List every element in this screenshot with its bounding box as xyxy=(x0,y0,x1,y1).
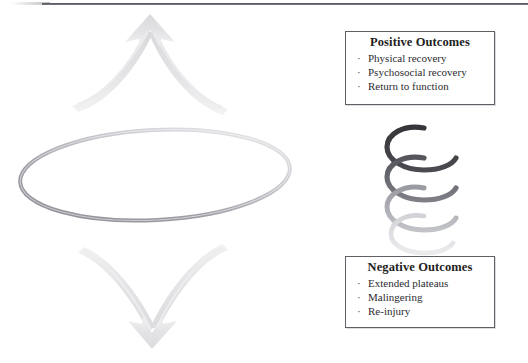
list-item: · Re-injury xyxy=(355,304,494,318)
bullet-icon: · xyxy=(357,51,361,65)
spiral-coil-icon xyxy=(387,127,456,253)
list-item-label: Extended plateaus xyxy=(368,277,448,289)
list-item: · Physical recovery xyxy=(355,51,494,65)
bullet-icon: · xyxy=(357,290,361,304)
list-item: · Psychosocial recovery xyxy=(355,65,494,79)
bullet-icon: · xyxy=(357,79,361,93)
positive-outcomes-title: Positive Outcomes xyxy=(346,35,494,50)
negative-outcomes-box: Negative Outcomes · Extended plateaus · … xyxy=(345,256,495,328)
down-arrow-icon xyxy=(78,244,228,349)
bullet-icon: · xyxy=(357,65,361,79)
list-item-label: Physical recovery xyxy=(368,52,447,64)
list-item: · Extended plateaus xyxy=(355,276,494,290)
negative-outcomes-title: Negative Outcomes xyxy=(346,260,494,275)
up-arrow-icon xyxy=(72,14,228,115)
list-item-label: Psychosocial recovery xyxy=(368,66,467,78)
positive-outcomes-box: Positive Outcomes · Physical recovery · … xyxy=(345,31,495,105)
positive-outcomes-list: · Physical recovery · Psychosocial recov… xyxy=(346,51,494,94)
list-item-label: Malingering xyxy=(368,291,422,303)
list-item: · Return to function xyxy=(355,79,494,93)
list-item: · Malingering xyxy=(355,290,494,304)
figure-canvas: Positive Outcomes · Physical recovery · … xyxy=(0,0,528,363)
list-item-label: Re-injury xyxy=(368,305,410,317)
negative-outcomes-list: · Extended plateaus · Malingering · Re-i… xyxy=(346,276,494,319)
bullet-icon: · xyxy=(357,276,361,290)
list-item-label: Return to function xyxy=(368,80,449,92)
bullet-icon: · xyxy=(357,304,361,318)
ellipse-loop xyxy=(18,123,292,227)
